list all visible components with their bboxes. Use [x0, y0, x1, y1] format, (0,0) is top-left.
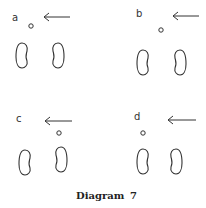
arrow-left-icon — [45, 117, 72, 125]
ball-icon — [57, 131, 61, 135]
right-foot-icon — [171, 149, 182, 174]
diagram-7: a b c d — [0, 0, 206, 208]
panel-label-a: a — [12, 12, 18, 23]
panel-label-c: c — [16, 113, 22, 124]
panel-c: c — [16, 113, 72, 175]
right-foot-icon — [53, 43, 64, 68]
left-foot-icon — [16, 43, 27, 68]
panel-d: d — [134, 111, 196, 174]
arrow-left-icon — [168, 116, 196, 124]
ball-icon — [29, 24, 33, 28]
panel-a: a — [12, 12, 70, 68]
right-foot-icon — [56, 147, 67, 172]
arrow-left-icon — [44, 13, 70, 21]
caption-number: 7 — [130, 190, 137, 201]
panel-label-d: d — [134, 111, 140, 122]
panel-b: b — [136, 8, 199, 75]
left-foot-icon — [137, 50, 148, 75]
caption-word: Diagram — [76, 190, 125, 201]
ball-icon — [141, 131, 145, 135]
right-foot-icon — [175, 50, 186, 75]
panel-label-b: b — [136, 8, 142, 19]
arrow-left-icon — [173, 12, 199, 20]
left-foot-icon — [19, 150, 30, 175]
ball-icon — [159, 28, 163, 32]
left-foot-icon — [137, 149, 148, 174]
